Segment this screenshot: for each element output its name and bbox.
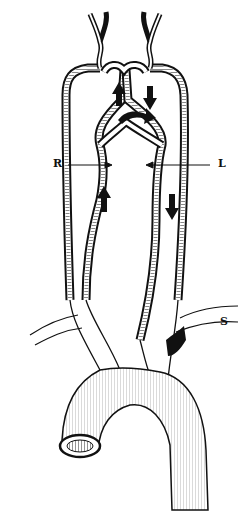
arrow-down-icon	[143, 86, 157, 110]
label-left: L	[218, 157, 226, 170]
left-inner-vessel	[126, 70, 162, 340]
label-subclavian: S	[220, 315, 228, 328]
arrow-down-icon	[165, 194, 179, 220]
label-pointers	[68, 162, 210, 168]
right-outer-vessel	[66, 68, 100, 300]
artery-illustration	[0, 0, 250, 515]
aortic-arch	[60, 368, 208, 510]
label-right: R	[53, 157, 62, 170]
left-subclavian	[176, 306, 238, 332]
vascular-diagram: R L S	[0, 0, 250, 515]
shaded-occlusion	[166, 326, 186, 356]
